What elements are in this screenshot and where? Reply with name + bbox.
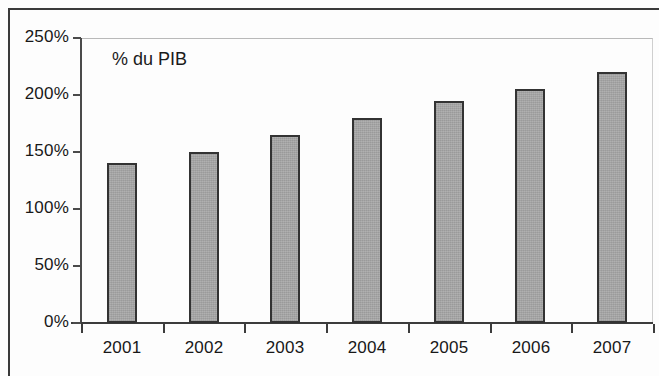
x-axis-tick [490,324,492,333]
x-axis-tick-label: 2002 [163,338,245,358]
x-axis-tick [571,324,573,333]
x-axis-tick [81,324,83,333]
x-axis-tick [653,324,655,333]
bar-chart: 0%50%100%150%200%250% 200120022003200420… [0,0,659,376]
y-axis-tick-label: 0% [0,312,69,332]
x-axis-tick-label: 2001 [81,338,163,358]
y-axis-tick-label: 50% [0,255,69,275]
bar-2004 [352,118,382,323]
bar-2002 [189,152,219,323]
plot-annotation-label: % du PIB [112,49,187,70]
x-axis-tick [244,324,246,333]
y-axis-tick [73,37,81,39]
y-axis-tick [73,151,81,153]
y-axis-tick-label: 200% [0,84,69,104]
y-axis-tick [73,265,81,267]
bar-2007 [597,72,627,323]
x-axis-tick-label: 2004 [326,338,408,358]
bar-2003 [270,135,300,323]
y-axis-tick [73,208,81,210]
y-axis-tick [73,322,81,324]
x-axis-tick [163,324,165,333]
bar-2001 [107,163,137,323]
x-axis-tick-label: 2003 [244,338,326,358]
y-axis-line [80,38,82,324]
bar-2006 [515,89,545,323]
y-axis-tick-label: 100% [0,198,69,218]
x-axis-tick-label: 2005 [408,338,490,358]
x-axis-tick [326,324,328,333]
bar-2005 [434,101,464,323]
y-axis-tick-label: 150% [0,141,69,161]
y-axis-tick-label: 250% [0,27,69,47]
y-axis-tick [73,94,81,96]
x-axis-tick-label: 2006 [490,338,572,358]
x-axis-tick-label: 2007 [571,338,653,358]
x-axis-tick [408,324,410,333]
